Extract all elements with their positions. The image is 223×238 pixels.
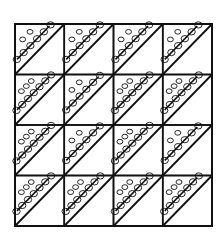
loop-mark <box>160 107 167 113</box>
cell-diagonal <box>114 125 163 176</box>
quilt-cell <box>62 22 113 75</box>
loop-mark <box>76 29 82 34</box>
loop-mark <box>96 123 103 129</box>
quilt-cell <box>160 173 212 226</box>
loop-mark <box>176 180 182 185</box>
quilt-cell <box>13 122 65 175</box>
loop-mark <box>126 29 132 34</box>
quilt-grid <box>13 22 212 226</box>
loop-mark <box>171 84 177 89</box>
cell-diagonal <box>163 176 212 227</box>
quilt-cell <box>111 173 163 226</box>
quilt-cell <box>161 123 212 176</box>
loop-mark <box>18 89 24 94</box>
quilt-cell <box>13 72 65 125</box>
loop-mark <box>73 185 79 190</box>
loop-mark <box>122 134 128 139</box>
cell-diagonal <box>15 75 64 126</box>
loop-mark <box>122 185 128 190</box>
quilt-pattern <box>0 0 223 238</box>
loop-mark <box>23 185 29 190</box>
loop-mark <box>18 190 24 195</box>
loop-mark <box>166 190 172 195</box>
quilt-cell <box>111 122 163 175</box>
loop-mark <box>76 80 82 85</box>
loop-mark <box>13 208 20 214</box>
quilt-cell <box>161 22 212 75</box>
loop-mark <box>118 37 124 42</box>
loop-mark <box>78 180 84 185</box>
loop-mark <box>111 208 118 214</box>
quilt-cell <box>62 123 113 176</box>
loop-mark <box>167 37 173 42</box>
quilt-cell <box>62 173 114 226</box>
loop-mark <box>20 37 26 42</box>
loop-mark <box>69 37 75 42</box>
loop-mark <box>28 79 34 84</box>
quilt-cell <box>13 173 65 226</box>
loop-mark <box>167 138 173 143</box>
loop-mark <box>13 158 20 164</box>
loop-mark <box>122 84 128 89</box>
loop-mark <box>195 123 202 129</box>
loop-mark <box>13 107 20 113</box>
quilt-cell <box>62 72 113 125</box>
quilt-cell <box>111 72 163 125</box>
loop-mark <box>117 190 123 195</box>
loop-mark <box>127 129 133 134</box>
loop-mark <box>27 29 33 34</box>
cell-diagonal <box>64 176 113 227</box>
loop-mark <box>69 88 75 93</box>
cell-diagonal <box>15 176 64 227</box>
loop-mark <box>160 208 167 214</box>
loop-mark <box>176 79 182 84</box>
loop-mark <box>62 208 69 214</box>
loop-mark <box>28 129 34 134</box>
loop-mark <box>76 130 82 135</box>
quilt-cell <box>160 72 212 125</box>
cell-diagonal <box>114 176 163 227</box>
loop-mark <box>171 185 177 190</box>
loop-mark <box>28 180 34 185</box>
loop-mark <box>69 138 75 143</box>
loop-mark <box>127 180 133 185</box>
loop-mark <box>117 89 123 94</box>
loop-mark <box>68 190 74 195</box>
cell-diagonal <box>163 75 212 126</box>
loop-mark <box>96 72 103 78</box>
loop-mark <box>23 84 29 89</box>
loop-mark <box>166 89 172 94</box>
quilt-cell <box>13 22 64 75</box>
loop-mark <box>111 107 118 113</box>
cell-diagonal <box>114 75 163 126</box>
loop-mark <box>117 139 123 144</box>
loop-mark <box>175 29 181 34</box>
loop-mark <box>111 158 118 164</box>
loop-mark <box>175 130 181 135</box>
loop-mark <box>127 79 133 84</box>
quilt-cell <box>112 22 163 75</box>
loop-mark <box>23 134 29 139</box>
loop-mark <box>18 139 24 144</box>
cell-diagonal <box>15 125 64 176</box>
